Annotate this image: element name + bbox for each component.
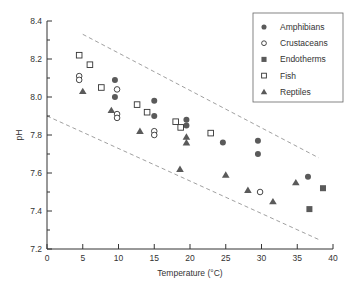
x-tick-label: 15 (150, 253, 160, 263)
data-point (220, 140, 226, 146)
data-point (305, 174, 311, 180)
data-point (99, 85, 105, 91)
data-point (151, 132, 157, 138)
series-crustaceans (76, 73, 262, 195)
x-tick-label: 30 (257, 253, 267, 263)
data-point (178, 125, 184, 131)
data-point (173, 119, 179, 125)
data-point (222, 171, 230, 177)
data-point (114, 87, 120, 93)
data-point (320, 185, 326, 191)
data-point (79, 88, 87, 94)
x-axis-label: Temperature (°C) (157, 268, 222, 278)
y-tick-label: 8.0 (30, 92, 42, 102)
data-point (208, 130, 214, 136)
open-square-icon (262, 73, 267, 78)
series-fish (76, 52, 213, 136)
data-point (114, 115, 120, 121)
scatter-chart: 05101520253035407.27.47.67.88.08.28.4 Am… (0, 0, 351, 291)
y-tick-label: 8.2 (30, 54, 42, 64)
data-point (112, 94, 118, 100)
data-point (134, 102, 140, 108)
data-point (244, 187, 252, 193)
data-point (257, 189, 263, 195)
data-point (183, 139, 191, 145)
data-point (151, 113, 157, 119)
legend-label: Fish (280, 71, 296, 81)
data-point (76, 52, 82, 58)
x-tick-label: 5 (80, 253, 85, 263)
y-tick-label: 7.6 (30, 168, 42, 178)
x-tick-label: 25 (221, 253, 231, 263)
data-point (269, 198, 277, 204)
data-point (151, 98, 157, 104)
y-tick-label: 7.2 (30, 244, 42, 254)
x-tick-label: 0 (45, 253, 50, 263)
legend: AmphibiansCrustaceansEndothermsFishRepti… (253, 13, 343, 102)
filled-circle-icon (261, 24, 266, 29)
data-point (292, 179, 300, 185)
x-tick-label: 10 (114, 253, 124, 263)
legend-label: Reptiles (280, 87, 311, 97)
data-point (306, 206, 312, 212)
data-point (183, 117, 189, 123)
x-tick-label: 20 (185, 253, 195, 263)
data-point (136, 128, 144, 134)
x-tick-label: 35 (293, 253, 303, 263)
data-point (108, 107, 116, 113)
y-tick-label: 8.4 (30, 16, 42, 26)
legend-label: Crustaceans (280, 38, 328, 48)
data-point (76, 77, 82, 83)
lower-bound-line (47, 116, 319, 240)
legend-label: Amphibians (280, 22, 324, 32)
legend-label: Endotherms (280, 54, 326, 64)
x-tick-label: 40 (328, 253, 338, 263)
data-point (176, 166, 184, 172)
data-point (144, 109, 150, 115)
data-point (255, 138, 261, 144)
data-point (87, 62, 93, 68)
data-point (183, 133, 191, 139)
y-axis-label: pH (14, 130, 24, 141)
filled-square-icon (261, 57, 266, 62)
data-point (183, 123, 189, 129)
data-point (112, 77, 118, 83)
y-tick-label: 7.8 (30, 130, 42, 140)
y-tick-label: 7.4 (30, 206, 42, 216)
data-point (255, 151, 261, 157)
series-endotherms (306, 185, 326, 212)
open-circle-icon (262, 41, 267, 46)
